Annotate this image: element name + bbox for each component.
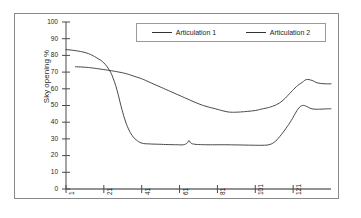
y-tick-label: 90 <box>36 36 58 43</box>
x-tick-label: 101 <box>258 184 265 195</box>
x-tick-label: 21 <box>107 188 114 195</box>
y-tick-label: 40 <box>36 119 58 126</box>
chart-legend: Articulation 1 Articulation 2 <box>136 23 326 42</box>
x-tick-label: 1 <box>69 191 76 195</box>
line-articulation-2 <box>75 67 331 113</box>
y-tick-label: 60 <box>36 86 58 93</box>
y-tick-label: 70 <box>36 69 58 76</box>
y-tick-label: 10 <box>36 169 58 176</box>
line-articulation-1 <box>66 50 331 146</box>
chart-frame: Sky opening % 0102030405060708090100 121… <box>14 13 339 199</box>
x-tick-label: 121 <box>296 184 303 195</box>
y-tick-label: 80 <box>36 52 58 59</box>
x-tick-label: 41 <box>145 188 152 195</box>
legend-line-swatch-icon <box>246 32 266 33</box>
legend-label: Articulation 1 <box>176 29 216 36</box>
legend-item-articulation-2: Articulation 2 <box>246 29 310 36</box>
legend-label: Articulation 2 <box>270 29 310 36</box>
x-tick-label: 61 <box>183 188 190 195</box>
x-tick-label: 81 <box>220 188 227 195</box>
y-tick-label: 20 <box>36 152 58 159</box>
legend-item-articulation-1: Articulation 1 <box>152 29 216 36</box>
legend-line-swatch-icon <box>152 32 172 33</box>
y-tick-label: 0 <box>36 186 58 193</box>
chart-figure: Sky opening % 0102030405060708090100 121… <box>0 0 361 218</box>
y-tick-label: 30 <box>36 136 58 143</box>
y-tick-label: 100 <box>36 19 58 26</box>
y-tick-label: 50 <box>36 102 58 109</box>
